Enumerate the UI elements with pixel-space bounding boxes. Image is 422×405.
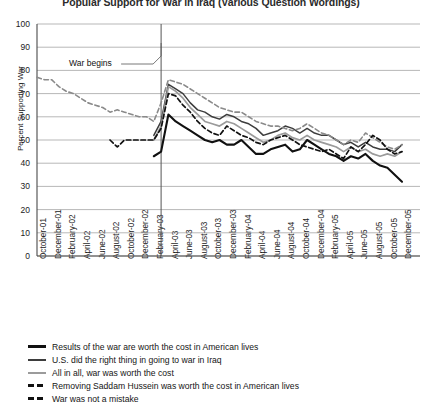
legend-line-swatch-icon: [28, 342, 46, 352]
legend-line-swatch-icon: [28, 368, 46, 378]
series-line-5: [110, 94, 402, 159]
legend-line-swatch-icon: [28, 394, 46, 404]
legend-item[interactable]: U.S. did the right thing in going to war…: [28, 353, 418, 366]
legend-line-swatch-icon: [28, 381, 46, 391]
war-begins-leader-line: [121, 43, 161, 64]
war-begins-annotation-label: War begins: [69, 58, 112, 68]
legend-item[interactable]: War was not a mistake: [28, 392, 418, 405]
chart-container: Popular Support for War in Iraq (Various…: [0, 0, 422, 405]
series-line-1: [154, 114, 402, 181]
legend-item[interactable]: All in all, war was worth the cost: [28, 366, 418, 379]
legend-item-label: Results of the war are worth the cost in…: [52, 342, 258, 352]
legend-line-swatch-icon: [28, 355, 46, 365]
legend-item-label: U.S. did the right thing in going to war…: [52, 355, 222, 365]
chart-legend: Results of the war are worth the cost in…: [28, 340, 418, 405]
legend-item[interactable]: Removing Saddam Hussein was worth the co…: [28, 379, 418, 392]
legend-item-label: War was not a mistake: [52, 394, 139, 404]
legend-item-label: Removing Saddam Hussein was worth the co…: [52, 381, 299, 391]
legend-item-label: All in all, war was worth the cost: [52, 368, 174, 378]
series-line-2: [154, 84, 402, 151]
legend-item[interactable]: Results of the war are worth the cost in…: [28, 340, 418, 353]
series-line-4: [37, 77, 402, 149]
